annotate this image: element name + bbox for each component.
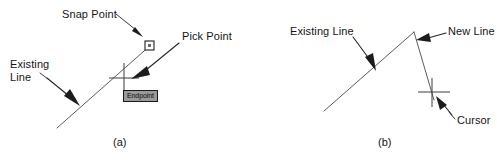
- label-cursor: Cursor: [457, 114, 491, 127]
- new-line-leader: [428, 33, 446, 38]
- endpoint-tooltip: Endpoint: [123, 90, 158, 102]
- snap-point-marker-center: [148, 44, 151, 47]
- label-snap-point: Snap Point: [62, 8, 117, 21]
- new-line-arrowhead: [416, 33, 431, 42]
- caption-panel-b: (b): [378, 136, 391, 148]
- existing-line-b: [324, 32, 414, 111]
- label-existing-line-b: Existing Line: [290, 25, 354, 38]
- existing-line-leader-a: [47, 78, 69, 96]
- new-line-b: [414, 32, 434, 100]
- label-new-line: New Line: [448, 25, 495, 38]
- diagram-canvas: [0, 0, 497, 162]
- label-existing-line-a: Existing Line: [10, 58, 49, 84]
- cursor-leader-tick: [449, 112, 455, 119]
- existing-line-arrowhead-a: [64, 89, 80, 106]
- figure-root: Snap Point Pick Point Existing Line Endp…: [0, 0, 497, 162]
- caption-panel-a: (a): [113, 136, 126, 148]
- panel-a-geometry: [40, 14, 179, 128]
- cursor-arrowhead: [436, 96, 447, 110]
- existing-line-a: [57, 44, 152, 128]
- panel-b-geometry: [324, 32, 455, 119]
- label-pick-point: Pick Point: [182, 30, 232, 43]
- pick-point-arrowhead: [131, 66, 150, 79]
- snap-point-leader: [116, 14, 136, 30]
